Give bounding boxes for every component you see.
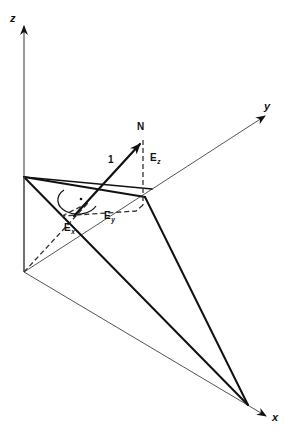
- vector-diagram: z y x N 1 Ez Ey Ex: [0, 0, 288, 439]
- normal-vector-line: [74, 144, 140, 216]
- y-axis-label: y: [263, 100, 271, 112]
- ez-label: Ez: [150, 152, 161, 165]
- magnitude-label: 1: [108, 154, 114, 165]
- figure-root: z y x N 1 Ez Ey Ex: [0, 0, 288, 439]
- ey-label-base: E: [104, 210, 111, 221]
- normal-vector-label: N: [137, 121, 144, 132]
- axis-group: [24, 26, 266, 416]
- normal-vector-group: [74, 144, 140, 216]
- ex-label-sub: x: [70, 228, 75, 235]
- label-group: z y x N 1 Ez Ey Ex: [9, 12, 279, 423]
- figure-caption: [4, 431, 284, 439]
- right-angle-arc: [58, 190, 96, 214]
- x-axis-label: x: [271, 411, 279, 423]
- ex-projection-dashed: [24, 203, 88, 272]
- x-axis-line: [24, 272, 266, 416]
- ez-label-sub: z: [156, 158, 161, 165]
- right-angle-dot: [80, 198, 83, 201]
- ey-label: Ey: [104, 210, 115, 224]
- plane-edge-right-to-bottom: [145, 197, 248, 405]
- ey-label-sub: y: [110, 216, 115, 224]
- z-axis-label: z: [9, 12, 16, 24]
- right-angle-marker: [58, 190, 96, 214]
- ex-label-base: E: [64, 222, 71, 233]
- ex-label: Ex: [64, 222, 75, 235]
- ez-label-base: E: [150, 152, 157, 163]
